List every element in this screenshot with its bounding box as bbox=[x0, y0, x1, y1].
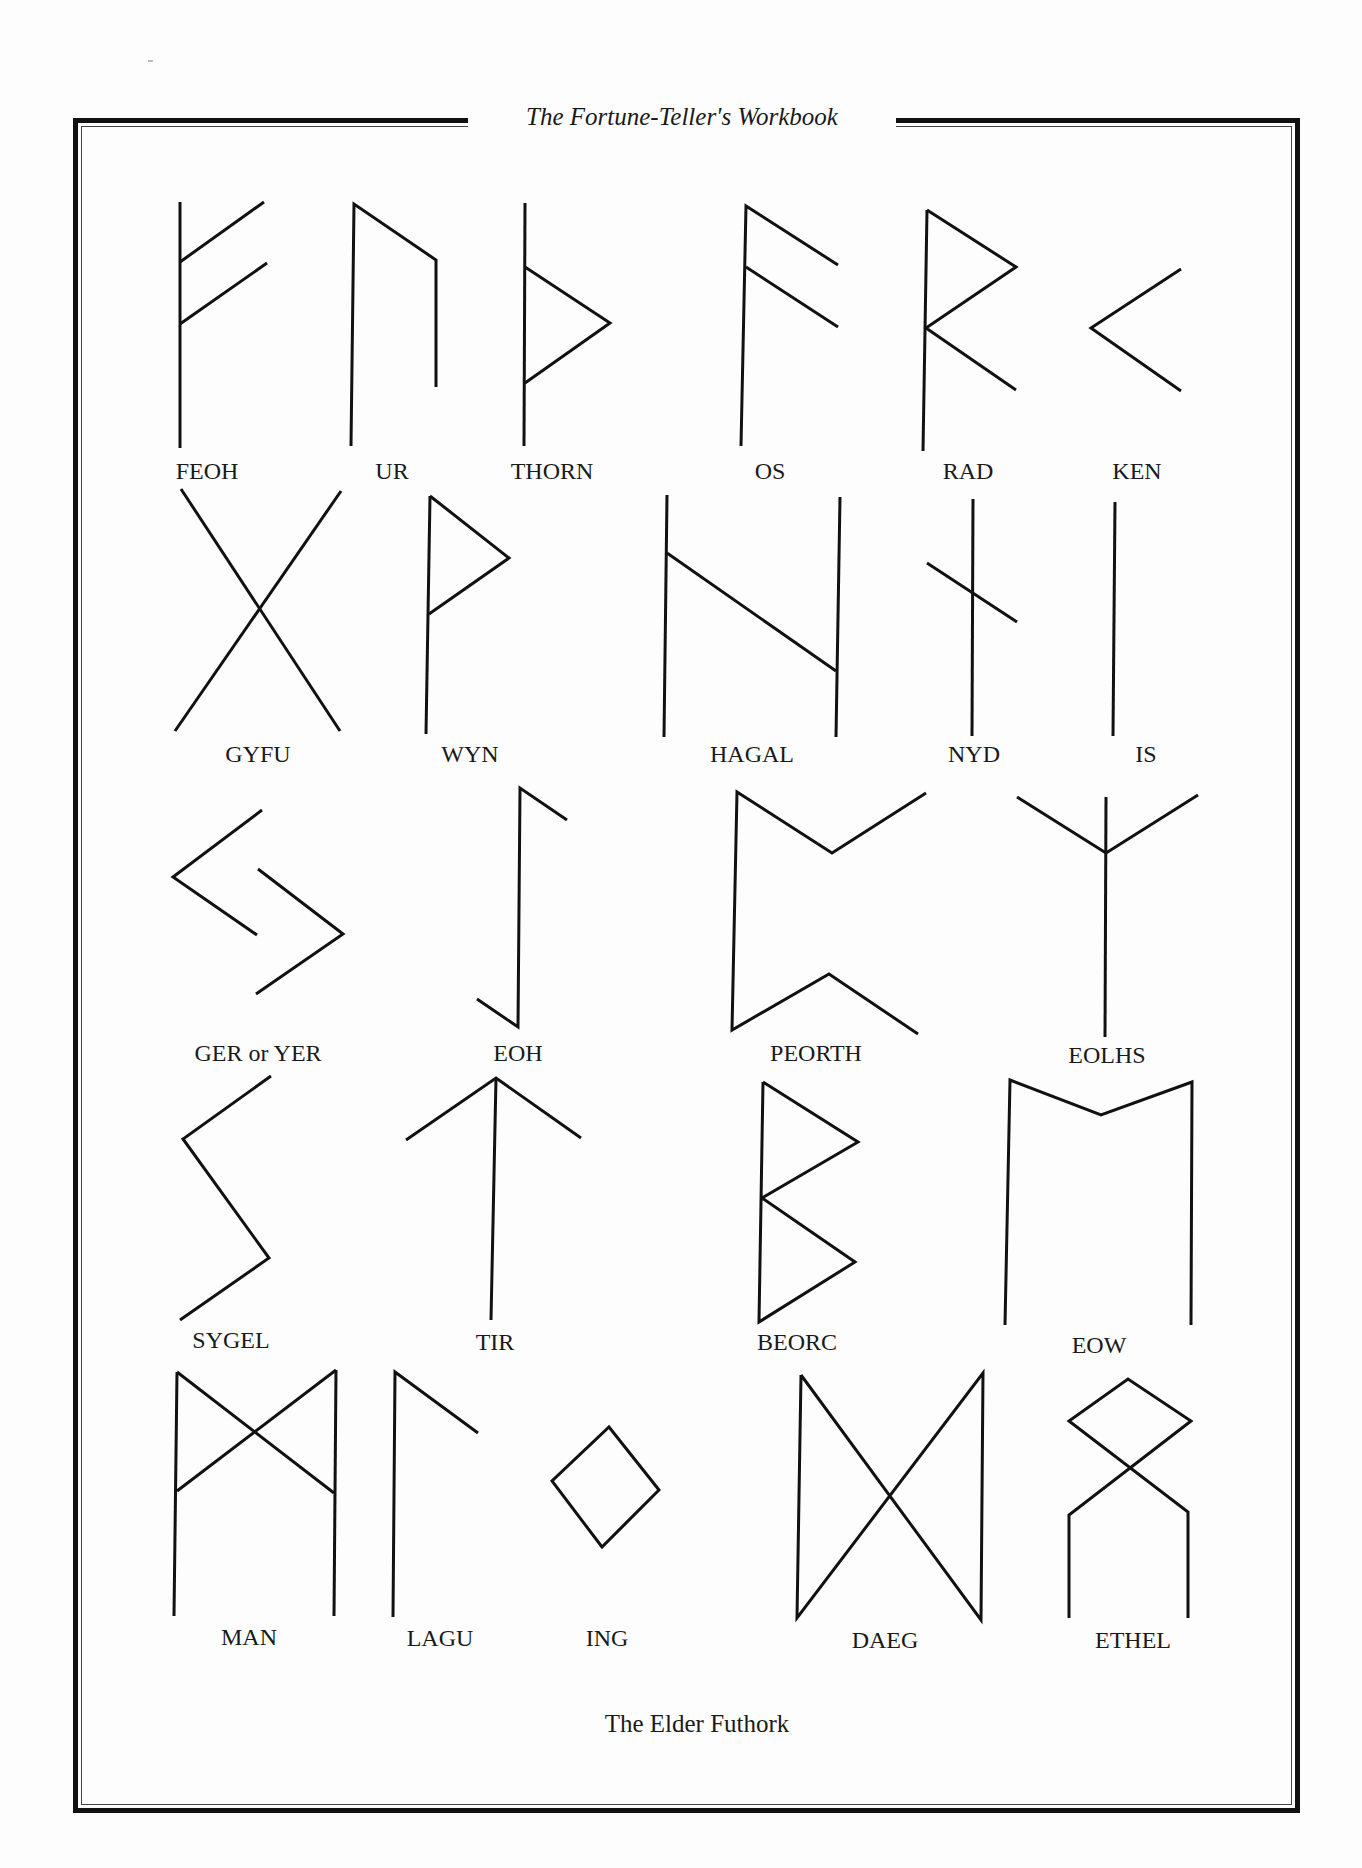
rune-label-eoh: EOH bbox=[493, 1040, 542, 1066]
rune-peorth-glyph bbox=[732, 792, 926, 1034]
rune-lagu-glyph bbox=[393, 1372, 478, 1617]
rune-label-lagu: LAGU bbox=[407, 1625, 474, 1651]
rune-label-beorc: BEORC bbox=[757, 1329, 837, 1355]
rune-label-os: OS bbox=[755, 458, 786, 484]
rune-gyfu-glyph bbox=[175, 489, 341, 731]
rune-label-ing: ING bbox=[586, 1625, 629, 1651]
rune-os-glyph bbox=[741, 206, 838, 446]
rune-label-hagal: HAGAL bbox=[710, 741, 794, 767]
rune-label-ger: GER or YER bbox=[194, 1040, 321, 1066]
rune-nyd-glyph bbox=[927, 499, 1017, 736]
page: The Fortune-Teller's Workbook bbox=[0, 0, 1362, 1868]
rune-label-wyn: WYN bbox=[441, 741, 498, 767]
rune-label-eolhs: EOLHS bbox=[1068, 1042, 1145, 1068]
rune-man-glyph bbox=[174, 1370, 336, 1616]
figure-caption: The Elder Futhork bbox=[605, 1709, 790, 1739]
rune-ethel-glyph bbox=[1069, 1379, 1191, 1618]
rune-tir-glyph bbox=[406, 1078, 581, 1320]
rune-label-ur: UR bbox=[375, 458, 408, 484]
rune-wyn-glyph bbox=[426, 496, 509, 734]
rune-label-daeg: DAEG bbox=[852, 1627, 919, 1653]
rune-rad-glyph bbox=[923, 210, 1016, 451]
rune-label-ken: KEN bbox=[1112, 458, 1161, 484]
rune-feoh-glyph bbox=[180, 202, 267, 448]
rune-ger-glyph bbox=[173, 810, 343, 994]
rune-drawings bbox=[0, 0, 1362, 1868]
rune-is-glyph bbox=[1113, 502, 1115, 736]
rune-label-ethel: ETHEL bbox=[1095, 1627, 1171, 1653]
rune-eolhs-glyph bbox=[1017, 795, 1198, 1037]
rune-label-eow: EOW bbox=[1072, 1332, 1127, 1358]
rune-eow-glyph bbox=[1005, 1080, 1192, 1325]
rune-label-is: IS bbox=[1135, 741, 1156, 767]
rune-hagal-glyph bbox=[664, 495, 840, 737]
rune-daeg-glyph bbox=[797, 1373, 983, 1620]
rune-label-tir: TIR bbox=[476, 1329, 515, 1355]
rune-sygel-glyph bbox=[180, 1076, 271, 1320]
rune-label-thorn: THORN bbox=[511, 458, 594, 484]
rune-label-nyd: NYD bbox=[948, 741, 1000, 767]
rune-ur-glyph bbox=[351, 204, 436, 446]
rune-thorn-glyph bbox=[524, 203, 610, 446]
rune-beorc-glyph bbox=[759, 1082, 858, 1322]
rune-ken-glyph bbox=[1091, 269, 1181, 391]
rune-label-sygel: SYGEL bbox=[192, 1327, 269, 1353]
rune-ing-glyph bbox=[552, 1427, 659, 1547]
rune-label-rad: RAD bbox=[943, 458, 994, 484]
rune-label-feoh: FEOH bbox=[176, 458, 239, 484]
rune-label-man: MAN bbox=[221, 1624, 277, 1650]
rune-label-gyfu: GYFU bbox=[225, 741, 290, 767]
rune-eoh-glyph bbox=[477, 788, 567, 1027]
rune-label-peorth: PEORTH bbox=[770, 1040, 862, 1066]
